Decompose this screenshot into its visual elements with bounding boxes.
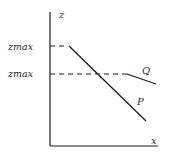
zmax-lower-label: zmax	[7, 68, 34, 79]
curve-p-label: P	[136, 96, 144, 107]
zmax-upper-label: zmax	[7, 41, 34, 52]
y-axis-label: z	[58, 9, 65, 20]
curve-q-label: Q	[142, 65, 150, 76]
diagram-canvas: z x zmax zmax Q P	[0, 0, 171, 157]
x-axis-label: x	[151, 135, 157, 146]
line-p	[69, 46, 146, 121]
